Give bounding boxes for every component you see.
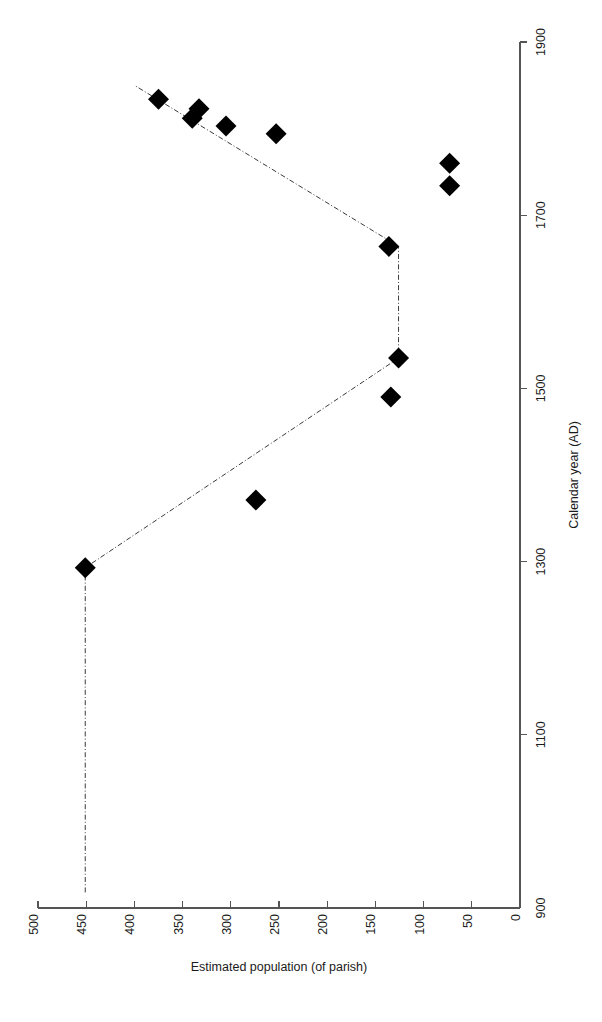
population-axis-ticks: 500450400350300250200150100500	[27, 901, 523, 935]
trend-line	[85, 85, 398, 892]
year-axis-ticks: 90011001300150017001900	[520, 28, 548, 918]
data-point-marker	[380, 387, 401, 408]
data-point-marker	[378, 236, 399, 257]
population-tick-label: 50	[461, 914, 475, 928]
population-tick-label: 100	[413, 914, 427, 935]
population-axis-title: Estimated population (of parish)	[191, 960, 367, 974]
year-tick-label: 1700	[534, 201, 548, 229]
population-tick-label: 500	[27, 914, 41, 935]
year-tick-label: 1900	[534, 28, 548, 56]
data-markers-group	[75, 89, 460, 579]
year-tick-label: 900	[534, 898, 548, 919]
year-tick-label: 1300	[534, 548, 548, 576]
population-tick-label: 300	[220, 914, 234, 935]
population-tick-label: 450	[75, 914, 89, 935]
data-point-marker	[439, 175, 460, 196]
data-point-marker	[245, 490, 266, 511]
data-point-marker	[75, 557, 96, 578]
year-tick-label: 1500	[534, 374, 548, 402]
population-tick-label: 350	[172, 914, 186, 935]
data-point-marker	[439, 153, 460, 174]
data-point-marker	[266, 123, 287, 144]
year-axis: 90011001300150017001900 Calendar year (A…	[520, 28, 581, 918]
population-tick-label: 200	[316, 914, 330, 935]
trend-line-group	[85, 85, 398, 892]
year-tick-label: 1100	[534, 721, 548, 748]
population-tick-label: 250	[268, 914, 282, 935]
population-axis: 500450400350300250200150100500 Estimated…	[27, 901, 523, 974]
chart-figure: 500450400350300250200150100500 Estimated…	[0, 0, 602, 1022]
population-tick-label: 400	[123, 914, 137, 935]
data-point-marker	[388, 348, 409, 369]
population-tick-label: 150	[364, 914, 378, 935]
year-axis-title: Calendar year (AD)	[567, 421, 581, 529]
population-tick-label: 0	[509, 914, 523, 921]
chart-svg: 500450400350300250200150100500 Estimated…	[0, 0, 602, 1022]
data-point-marker	[215, 116, 236, 137]
data-point-marker	[148, 89, 169, 110]
